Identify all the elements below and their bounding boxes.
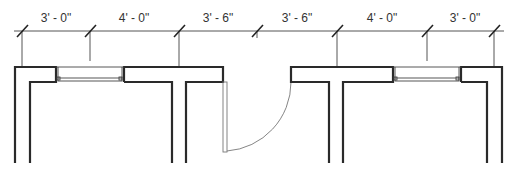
window-sill [58, 78, 122, 81]
dimension-label: 3' - 6" [203, 11, 234, 25]
window-jamb [394, 77, 397, 80]
wall-inner-stub [124, 82, 172, 163]
wall-outer-left [15, 67, 56, 163]
wall-door-jamb-right [291, 67, 393, 163]
left-window [56, 67, 124, 81]
dimension-labels: 3' - 0" 4' - 0" 3' - 6" 3' - 6" 4' - 0" … [41, 11, 481, 25]
dimension-label: 4' - 0" [119, 11, 150, 25]
dimension-string [14, 31, 504, 67]
wall-inner-right [461, 82, 487, 163]
window-jamb [57, 77, 60, 80]
dimension-ticks [17, 25, 500, 37]
door [223, 82, 291, 152]
dimension-label: 3' - 0" [41, 11, 72, 25]
window-sill [395, 78, 459, 81]
dimension-label: 3' - 6" [282, 11, 313, 25]
right-window [393, 67, 461, 81]
door-panel [223, 82, 227, 152]
dimension-label: 3' - 0" [450, 11, 481, 25]
floor-plan-drawing: 3' - 0" 4' - 0" 3' - 6" 3' - 6" 4' - 0" … [0, 0, 512, 172]
door-swing-arc [227, 82, 291, 151]
dimension-label: 4' - 0" [367, 11, 398, 25]
